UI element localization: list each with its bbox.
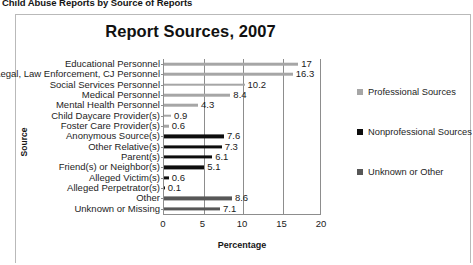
bar [164,73,293,76]
legend-item: Nonprofessional Sources [357,112,473,152]
bar-row: Medical Personnel8.4 [164,90,320,100]
plot-area: Educational Personnel17Legal, Law Enforc… [163,59,321,214]
chart-title: Report Sources, 2007 [16,22,470,41]
bar [164,187,165,190]
category-label: Child Daycare Provider(s) [51,111,160,121]
legend-label: Nonprofessional Sources [368,127,472,137]
bar [164,94,230,97]
category-label: Alleged Victim(s) [89,173,160,183]
document-header: Child Abuse Reports by Source of Reports [2,0,192,8]
bar-row: Other Relative(s)7.3 [164,142,320,152]
category-label: Social Services Personnel [50,80,160,90]
category-label: Medical Personnel [82,90,160,100]
legend-item: Professional Sources [357,72,473,112]
bar-value-label: 0.1 [168,183,181,193]
bar-row: Friend(s) or Neighbor(s)5.1 [164,162,320,172]
bar [164,156,212,159]
x-tick-label: 15 [276,218,287,229]
legend-label: Professional Sources [368,87,456,97]
bar-value-label: 5.1 [207,163,220,173]
category-label: Parent(s) [121,152,160,162]
bar-value-label: 16.3 [296,70,315,80]
bar-value-label: 6.1 [215,152,228,162]
bar-value-label: 7.3 [225,142,238,152]
category-label: Other [136,194,160,204]
bar-value-label: 8.6 [235,194,248,204]
chart-figure: Report Sources, 2007 Source Educational … [15,14,471,263]
bar-row: Mental Health Personnel4.3 [164,100,320,110]
bar-value-label: 10.2 [248,80,267,90]
category-label: Unknown or Missing [74,204,160,214]
category-label: Friend(s) or Neighbor(s) [59,163,160,173]
bar-row: Anonymous Source(s)7.6 [164,131,320,141]
bar [164,207,220,210]
y-axis-title: Source [19,128,29,157]
legend-item: Unknown or Other [357,152,473,192]
bar-row: Other8.6 [164,193,320,203]
bar-row: Foster Care Provider(s)0.6 [164,121,320,131]
x-tick-label: 20 [316,218,327,229]
x-tick-label: 0 [160,218,165,229]
category-label: Legal, Law Enforcement, CJ Personnel [0,70,160,80]
bar [164,104,198,107]
bar [164,125,169,128]
bar-value-label: 7.1 [223,204,236,214]
legend-swatch [357,169,363,175]
legend-swatch [357,89,363,95]
bar [164,63,298,66]
category-label: Anonymous Source(s) [66,132,160,142]
x-axis-line [163,214,321,215]
bar-row: Alleged Victim(s)0.6 [164,173,320,183]
category-label: Alleged Perpetrator(s) [67,183,160,193]
bar [164,197,232,200]
bar-value-label: 0.6 [172,121,185,131]
category-label: Educational Personnel [65,59,160,69]
chart-legend: Professional SourcesNonprofessional Sour… [357,72,473,192]
bar-value-label: 0.6 [172,173,185,183]
category-label: Mental Health Personnel [56,101,160,111]
x-tick-label: 5 [200,218,205,229]
bar [164,166,204,169]
bar-row: Parent(s)6.1 [164,152,320,162]
category-label: Foster Care Provider(s) [61,121,160,131]
bar-value-label: 17 [301,59,312,69]
bar-row: Legal, Law Enforcement, CJ Personnel16.3 [164,69,320,79]
bar [164,145,222,148]
x-tick-label: 10 [237,218,248,229]
bar-row: Child Daycare Provider(s)0.9 [164,111,320,121]
bar-value-label: 4.3 [201,101,214,111]
legend-swatch [357,129,363,135]
legend-label: Unknown or Other [368,167,443,177]
bar [164,115,171,118]
bar-value-label: 0.9 [174,111,187,121]
bar-value-label: 7.6 [227,132,240,142]
bar [164,135,224,138]
bar [164,176,169,179]
bar-value-label: 8.4 [233,90,246,100]
category-label: Other Relative(s) [88,142,160,152]
x-axis-title: Percentage [163,240,321,250]
bar-row: Unknown or Missing7.1 [164,204,320,214]
bar [164,84,245,87]
